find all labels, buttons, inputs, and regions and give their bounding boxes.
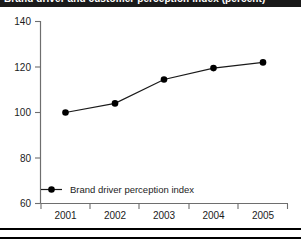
data-point-2005 (260, 59, 267, 66)
x-tick-label-2003: 2003 (153, 210, 176, 221)
chart-title-strip: Brand driver and customer perception ind… (0, 0, 301, 7)
legend-label-brand-driver-perception-index: Brand driver perception index (70, 184, 194, 195)
figure-bottom-divider-secondary (0, 237, 301, 239)
y-tick-label-120: 120 (14, 62, 31, 73)
x-tick-label-2004: 2004 (202, 210, 225, 221)
y-tick-label-140: 140 (14, 16, 31, 27)
legend-marker-icon (48, 186, 55, 193)
x-tick-label-2005: 2005 (252, 210, 275, 221)
line-chart-plot: 140 120 100 80 60 2001 2002 2003 2004 20… (0, 7, 301, 228)
series-line-brand-driver-perception-index (66, 62, 264, 112)
data-point-2004 (210, 65, 217, 72)
x-tick-label-2002: 2002 (104, 210, 127, 221)
x-tick-label-2001: 2001 (54, 210, 77, 221)
chart-title: Brand driver and customer perception ind… (4, 0, 265, 4)
data-point-2001 (62, 109, 69, 116)
figure-bottom-divider (0, 228, 301, 230)
y-tick-label-60: 60 (20, 198, 32, 209)
y-tick-label-80: 80 (20, 153, 32, 164)
chart-figure: Brand driver and customer perception ind… (0, 0, 301, 239)
data-point-2002 (112, 100, 119, 107)
x-axis-ticks (41, 204, 288, 210)
chart-legend: Brand driver perception index (41, 184, 194, 195)
data-point-2003 (161, 76, 168, 83)
y-axis-ticks (35, 22, 41, 204)
y-tick-label-100: 100 (14, 107, 31, 118)
